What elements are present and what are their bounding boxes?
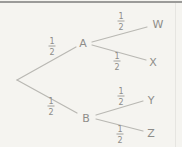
probability-denominator-root-B: 2 [48, 108, 53, 117]
node-label-W: W [153, 18, 164, 31]
tree-edge-root-B [17, 80, 77, 113]
probability-numerator-root-A: 1 [49, 37, 54, 46]
probability-numerator-root-B: 1 [48, 97, 53, 106]
node-label-Y: Y [147, 94, 155, 107]
probability-denominator-A-W: 2 [118, 23, 123, 32]
worksheet-page: ABWXYZ121212121212 [0, 0, 182, 147]
probability-denominator-B-Y: 2 [118, 98, 123, 107]
node-label-A: A [79, 37, 87, 50]
probability-numerator-B-Y: 1 [118, 87, 123, 96]
probability-numerator-A-W: 1 [118, 12, 123, 21]
probability-numerator-B-Z: 1 [117, 125, 122, 134]
tree-edge-root-A [17, 47, 76, 80]
probability-denominator-A-X: 2 [114, 63, 119, 72]
node-label-X: X [149, 56, 157, 69]
probability-numerator-A-X: 1 [114, 52, 119, 61]
node-label-Z: Z [147, 127, 155, 140]
probability-denominator-B-Z: 2 [117, 136, 122, 145]
node-label-B: B [82, 112, 90, 125]
probability-denominator-root-A: 2 [49, 48, 54, 57]
probability-tree-diagram: ABWXYZ121212121212 [0, 0, 182, 147]
